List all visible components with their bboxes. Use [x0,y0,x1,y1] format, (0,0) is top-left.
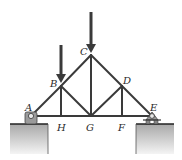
ground-right [136,124,174,154]
truss-diagram: A B C D E H G F [0,0,182,160]
load-arrow-B [56,45,66,83]
joint-label-B: B [49,78,57,89]
member-AB [31,86,61,116]
joint-label-H: H [56,122,66,133]
member-BG [61,86,91,116]
ground-left [10,124,48,154]
joint-label-C: C [80,46,88,57]
member-DG [91,86,122,116]
joint-label-A: A [24,102,32,113]
joint-label-E: E [149,102,158,113]
pin-support-A [25,112,37,124]
member-BC [61,55,91,86]
joint-label-G: G [86,122,94,133]
roller-support-E [143,112,161,124]
member-CD [91,55,122,86]
joint-label-F: F [117,122,126,133]
joint-label-D: D [122,75,131,86]
member-DE [122,86,152,116]
